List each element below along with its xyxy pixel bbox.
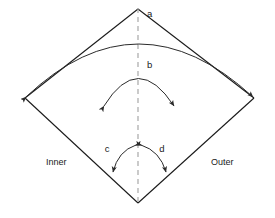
arc-arrow-b	[104, 79, 174, 107]
label-b: b	[147, 59, 152, 70]
diamond-outline	[25, 9, 254, 203]
label-outer: Outer	[211, 157, 234, 167]
edge-lower-right	[138, 98, 254, 203]
edge-lower-left	[25, 98, 138, 203]
label-a: a	[147, 8, 153, 19]
edge-upper-left	[25, 9, 138, 98]
label-d: d	[159, 143, 164, 154]
arc-arrow-c	[113, 145, 136, 172]
diagram-canvas: a b c d Inner Outer	[0, 0, 275, 218]
label-inner: Inner	[46, 157, 67, 167]
label-c: c	[105, 143, 110, 154]
diagram-svg: a b c d Inner Outer	[0, 0, 275, 218]
